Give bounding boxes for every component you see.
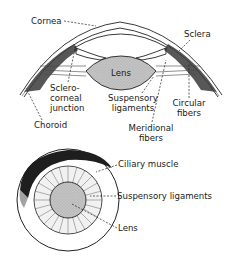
frontal-lens (50, 182, 86, 218)
left-iris (76, 48, 106, 60)
sclerocorneal-label-3: junction (49, 103, 84, 113)
cornea-label: Cornea (31, 16, 62, 26)
sclera-leader (178, 40, 190, 52)
circular-fibers-label-1: Circular (172, 98, 206, 108)
meridional-fibers-label-1: Meridional (129, 123, 174, 133)
suspensory-label-1: Suspensory (108, 93, 158, 103)
sclerocorneal-label-1: Sclero- (50, 83, 80, 93)
frontal-lens-label: Lens (118, 223, 138, 233)
cornea-leader (64, 21, 96, 26)
lens-label: Lens (111, 68, 131, 78)
choroid-label: Choroid (34, 120, 67, 130)
circular-fibers-label-2: fibers (177, 108, 202, 118)
right-ciliary-body (164, 44, 217, 92)
meridional-fibers-label-2: fibers (139, 133, 164, 143)
frontal-view: Ciliary muscle Suspensory ligaments Lens (17, 149, 213, 251)
choroid-leader (26, 88, 42, 120)
right-iris (136, 48, 166, 60)
suspensory-ligaments-label: Suspensory ligaments (117, 191, 213, 201)
anterior-chamber-arc (74, 34, 168, 48)
eye-diagram: Lens Cornea Sclera Sclero- corneal junct… (0, 0, 241, 262)
cross-section-view: Lens Cornea Sclera Sclero- corneal junct… (20, 16, 222, 143)
ciliary-muscle-label: Ciliary muscle (118, 159, 178, 169)
suspensory-label-2: ligaments (112, 103, 155, 113)
sclerocorneal-label-2: corneal (50, 93, 82, 103)
sclera-label: Sclera (184, 29, 211, 39)
